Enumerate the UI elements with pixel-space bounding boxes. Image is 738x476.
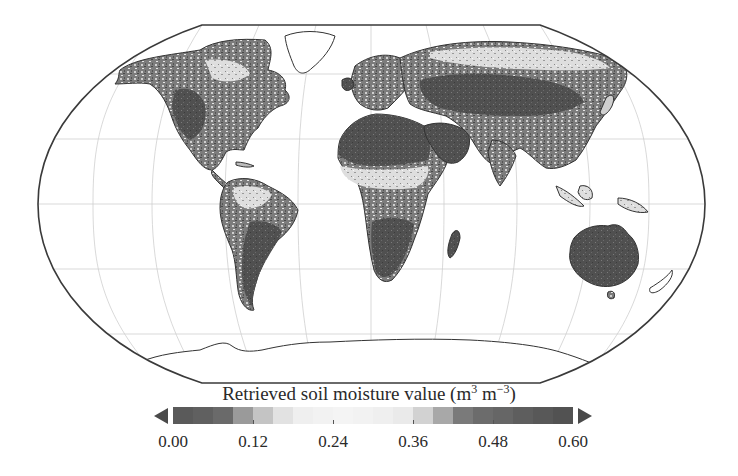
colorbar-segment — [533, 407, 553, 424]
borneo — [578, 186, 592, 200]
colorbar-segment — [213, 407, 233, 424]
tasmania — [607, 291, 614, 299]
colorbar-segment — [453, 407, 473, 424]
colorbar-tickmark — [413, 420, 414, 424]
colorbar-tick-label: 0.00 — [158, 432, 188, 452]
new-guinea — [618, 198, 648, 213]
colorbar-segment — [253, 407, 273, 424]
colorbar-segment — [333, 407, 353, 424]
madagascar — [448, 231, 460, 258]
colorbar-tick-label: 0.12 — [238, 432, 268, 452]
continents — [115, 32, 672, 401]
colorbar-segment — [233, 407, 253, 424]
colorbar-segment — [273, 407, 293, 424]
south-america-south-dry — [242, 221, 282, 306]
colorbar-segment — [393, 407, 413, 424]
colorbar-tickmark — [493, 420, 494, 424]
colorbar-segment — [473, 407, 493, 424]
colorbar-segment — [553, 407, 573, 424]
australia — [570, 225, 639, 287]
colorbar-tickmark — [333, 420, 334, 424]
greenland — [285, 32, 335, 74]
colorbar-tick-label: 0.60 — [558, 432, 588, 452]
colorbar-segment — [353, 407, 373, 424]
colorbar-segment — [433, 407, 453, 424]
colorbar-extend-min-arrow — [154, 408, 168, 424]
colorbar-segment — [173, 407, 193, 424]
colorbar-tick-label: 0.36 — [398, 432, 428, 452]
colorbar-segment — [373, 407, 393, 424]
colorbar-title: Retrieved soil moisture value (m3 m−3) — [0, 382, 738, 405]
colorbar-segment — [193, 407, 213, 424]
colorbar-tick-label: 0.24 — [318, 432, 348, 452]
colorbar-extend-max-arrow — [578, 408, 592, 424]
new-zealand — [650, 270, 673, 293]
british-isles — [342, 78, 354, 91]
southern-africa-dry — [371, 218, 414, 277]
colorbar-segment — [513, 407, 533, 424]
colorbar-tickmark — [253, 420, 254, 424]
colorbar — [173, 407, 573, 424]
colorbar-tick-label: 0.48 — [478, 432, 508, 452]
colorbar-segment — [293, 407, 313, 424]
colorbar-segment — [413, 407, 433, 424]
caribbean-islands — [236, 162, 254, 167]
colorbar-segment — [313, 407, 333, 424]
colorbar-segment — [493, 407, 513, 424]
